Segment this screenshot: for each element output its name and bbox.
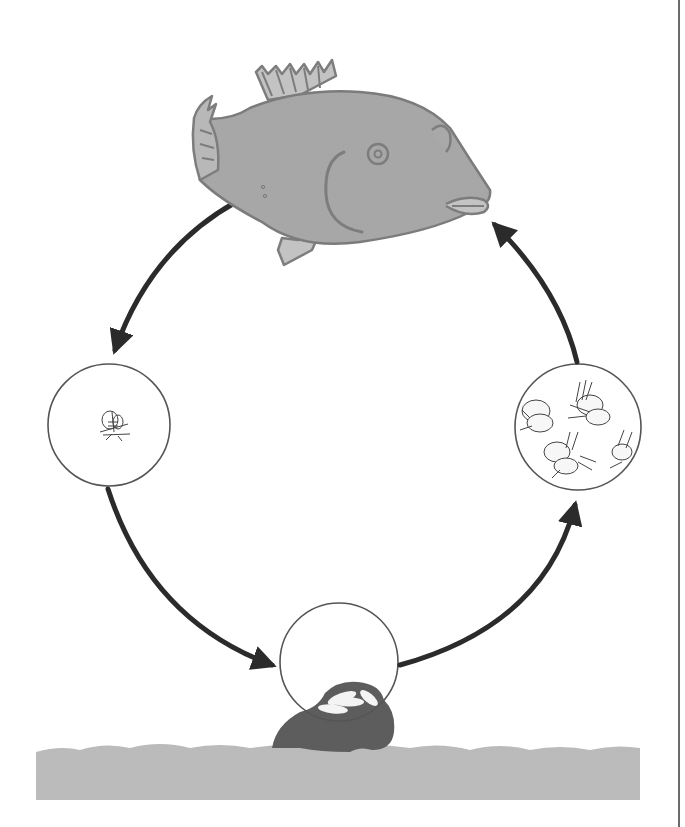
arrow-eggs-to-young-larvae [400,505,575,665]
fish-body [198,91,490,243]
arrow-fish-to-larva [115,202,236,350]
seabed [36,744,640,800]
arrow-young-larvae-to-fish [495,225,577,362]
eggs-stage [280,603,398,721]
page-border-right [678,0,680,827]
larva-stage [48,364,170,486]
cycle-arrows [108,202,577,665]
rock [272,682,394,752]
caption-cut-off [30,816,650,827]
adult-fish [193,60,490,265]
life-cycle-diagram [0,0,685,827]
young-larvae-stage [515,364,641,490]
tail-fin [193,96,218,180]
arrow-larva-to-eggs [108,489,272,665]
